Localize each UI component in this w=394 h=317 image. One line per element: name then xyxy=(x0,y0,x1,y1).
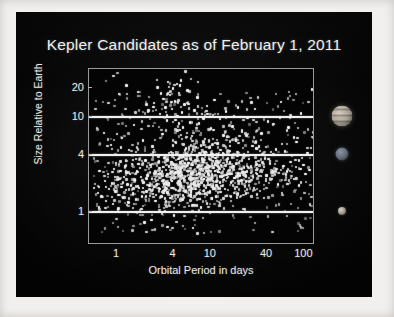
data-point xyxy=(102,101,104,103)
data-point xyxy=(170,187,172,189)
data-point xyxy=(207,206,209,208)
data-point xyxy=(210,197,212,199)
data-point xyxy=(173,214,175,216)
data-point xyxy=(206,105,208,107)
data-point xyxy=(149,195,151,197)
data-point xyxy=(297,127,299,129)
data-point xyxy=(111,171,113,173)
data-point xyxy=(184,70,186,72)
data-point xyxy=(172,121,174,123)
data-point xyxy=(222,134,224,136)
data-point xyxy=(151,184,153,186)
data-point xyxy=(246,170,248,172)
data-point xyxy=(239,174,241,176)
data-point xyxy=(168,189,170,191)
data-point xyxy=(199,165,201,167)
data-point xyxy=(278,172,280,174)
data-point xyxy=(178,204,180,206)
data-point xyxy=(234,188,236,190)
data-point xyxy=(263,197,265,199)
data-point xyxy=(183,162,185,164)
data-point xyxy=(199,162,201,164)
data-point xyxy=(174,131,176,133)
data-point xyxy=(230,173,232,175)
data-point xyxy=(116,72,118,74)
data-point xyxy=(250,169,252,171)
data-point xyxy=(254,183,256,185)
data-point xyxy=(231,171,233,173)
data-point xyxy=(300,197,302,199)
earth-reference-image xyxy=(338,207,346,215)
data-point xyxy=(158,126,160,128)
data-point xyxy=(210,231,212,233)
data-point xyxy=(177,172,179,174)
data-point xyxy=(139,223,141,225)
data-point xyxy=(194,149,196,151)
data-point xyxy=(127,132,129,134)
data-point xyxy=(222,125,224,127)
data-point xyxy=(152,110,154,112)
data-point xyxy=(126,183,128,185)
data-point xyxy=(228,136,230,138)
data-point xyxy=(228,124,230,126)
data-point xyxy=(300,112,302,114)
data-point xyxy=(171,198,173,200)
data-point xyxy=(223,168,225,170)
data-point xyxy=(288,179,290,181)
data-point xyxy=(173,84,175,86)
data-point xyxy=(171,93,173,95)
data-point xyxy=(118,163,120,165)
data-point xyxy=(117,123,119,125)
data-point xyxy=(104,166,106,168)
data-point xyxy=(193,219,195,221)
data-point xyxy=(305,181,307,183)
data-point xyxy=(219,191,221,193)
data-point xyxy=(268,182,270,184)
data-point xyxy=(229,162,231,164)
data-point xyxy=(188,205,190,207)
data-point xyxy=(191,140,193,142)
data-point xyxy=(227,176,229,178)
data-point xyxy=(165,101,167,103)
data-point xyxy=(152,106,154,108)
data-point xyxy=(97,185,99,187)
data-point xyxy=(267,131,269,133)
data-point xyxy=(202,200,204,202)
data-point xyxy=(135,203,137,205)
data-point xyxy=(142,187,144,189)
y-tick-mark xyxy=(88,211,92,212)
data-point xyxy=(287,134,289,136)
data-point xyxy=(141,179,143,181)
data-point xyxy=(131,188,133,190)
data-point xyxy=(154,200,156,202)
data-point xyxy=(106,195,108,197)
data-point xyxy=(281,143,283,145)
data-point xyxy=(235,163,237,165)
data-point xyxy=(237,192,239,194)
data-point xyxy=(197,183,199,185)
data-point xyxy=(179,198,181,200)
data-point xyxy=(275,93,277,95)
data-point xyxy=(237,172,239,174)
data-point xyxy=(222,162,224,164)
data-point xyxy=(107,176,109,178)
data-point xyxy=(185,137,187,139)
data-point xyxy=(169,172,171,174)
data-point xyxy=(306,147,308,149)
data-point xyxy=(147,125,149,127)
data-point xyxy=(153,102,155,104)
data-point xyxy=(192,204,194,206)
data-point xyxy=(228,169,230,171)
data-point xyxy=(245,92,247,94)
data-point xyxy=(158,187,160,189)
data-point xyxy=(260,158,262,160)
data-point xyxy=(242,147,244,149)
data-point xyxy=(254,165,256,167)
data-point xyxy=(181,111,183,113)
data-point xyxy=(241,131,243,133)
data-point xyxy=(260,132,262,134)
data-point xyxy=(190,121,192,123)
data-point xyxy=(137,163,139,165)
data-point xyxy=(171,180,173,182)
data-point xyxy=(171,108,173,110)
